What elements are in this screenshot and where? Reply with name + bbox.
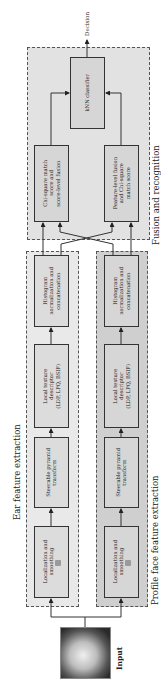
connector-arrows <box>0 0 165 699</box>
